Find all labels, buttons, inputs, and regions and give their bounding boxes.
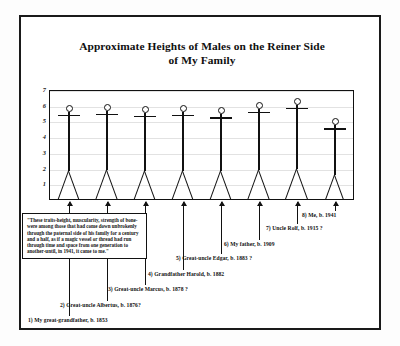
y-tick-label-6: 6 xyxy=(24,103,46,109)
callout-label-2: 2) Great-uncle Albertus, b. 1876? xyxy=(60,302,141,309)
y-tick-label-3: 3 xyxy=(24,150,46,156)
figure-arms xyxy=(248,112,270,114)
figure-head-icon xyxy=(294,98,301,105)
figure-leg-right xyxy=(325,174,335,199)
figure-torso xyxy=(258,109,260,170)
y-tick-label-7: 7 xyxy=(24,87,46,93)
callout-label-7: 7) Uncle Rolf, b. 1915 ? xyxy=(266,225,323,232)
figure-torso xyxy=(68,112,70,171)
page-title: Approximate Heights of Males on the Rein… xyxy=(51,39,353,67)
figure-arms xyxy=(96,114,118,116)
pointer-arrow-7 xyxy=(297,202,298,224)
figure-arms xyxy=(324,128,346,130)
y-tick-label-5: 5 xyxy=(24,118,46,124)
gridline-1 xyxy=(50,185,353,186)
y-tick-label-1: 1 xyxy=(24,181,46,187)
y-axis-tick-labels: 7654321 xyxy=(20,90,46,200)
pointer-arrow-5 xyxy=(221,202,222,254)
quote-callout-box: "These traits-height, muscularity, stren… xyxy=(22,213,147,259)
figure-head-icon xyxy=(256,102,263,109)
gridline-4 xyxy=(50,138,353,139)
page-canvas: Approximate Heights of Males on the Rein… xyxy=(0,0,400,346)
gridline-7 xyxy=(50,91,353,92)
figure-arms xyxy=(286,108,308,110)
figure-torso xyxy=(182,112,184,171)
pointer-arrow-8 xyxy=(335,202,336,211)
figure-arms xyxy=(134,116,156,118)
callout-label-4: 4) Grandfather Harold, b. 1882 xyxy=(148,271,224,278)
figure-arms xyxy=(58,115,80,117)
gridline-3 xyxy=(50,154,353,155)
figure-torso xyxy=(106,111,108,171)
figure-torso xyxy=(296,105,298,169)
figure-torso xyxy=(220,114,222,171)
figure-head-icon xyxy=(332,118,339,125)
gridline-2 xyxy=(50,170,353,171)
y-tick-label-2: 2 xyxy=(24,166,46,172)
callout-label-3: 3) Great-uncle Marcus, b. 1878 ? xyxy=(108,286,188,293)
figure-head-icon xyxy=(218,107,225,114)
plot-area xyxy=(50,90,354,200)
pointer-arrow-6 xyxy=(259,202,260,240)
callout-label-5: 5) Great-uncle Edgar, b. 1883 ? xyxy=(176,255,252,262)
figure-arms xyxy=(210,117,232,119)
quote-text: "These traits-height, muscularity, stren… xyxy=(27,217,139,254)
figure-torso xyxy=(144,113,146,171)
figure-arms xyxy=(172,115,194,117)
figure-head-icon xyxy=(180,105,187,112)
title-line-1: Approximate Heights of Males on the Rein… xyxy=(79,40,325,52)
figure-head-icon xyxy=(66,105,73,112)
figure-leg-right xyxy=(285,168,297,199)
figure-head-icon xyxy=(142,106,149,113)
figure-leg-left xyxy=(334,174,344,199)
figure-leg-left xyxy=(296,168,308,199)
callout-label-6: 6) My father, b. 1909 xyxy=(224,241,275,248)
y-tick-label-4: 4 xyxy=(24,134,46,140)
callout-label-1: 1) My great-grandfather, b. 1853 xyxy=(28,317,108,324)
gridline-5 xyxy=(50,122,353,123)
callout-label-8: 8) Me, b. 1941 xyxy=(302,212,336,219)
title-line-2: of My Family xyxy=(169,54,236,66)
figure-head-icon xyxy=(104,104,111,111)
figure-torso xyxy=(334,125,336,175)
